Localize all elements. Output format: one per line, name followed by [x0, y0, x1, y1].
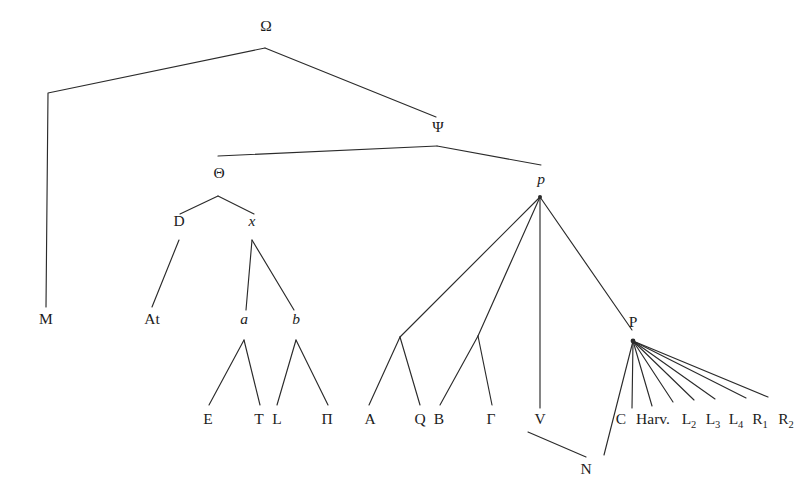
junction-p: [538, 195, 542, 199]
node-label-x: x: [248, 212, 256, 229]
node-label-pi: Π: [321, 410, 332, 427]
edge-p_cap-to-harv: [632, 341, 633, 408]
node-label-c: C: [616, 410, 626, 427]
stemma-canvas: ΩΨΘpMDxAtabETLΠAQBΓVNPCHarv.L2L3L4R1R2: [0, 0, 810, 498]
edge-fork1-to-a_cap: [369, 337, 400, 405]
edge-v-to-n: [528, 432, 586, 457]
node-label-l3: L3: [706, 410, 721, 430]
edge-b-to-pi: [296, 340, 328, 405]
node-label-l: L: [272, 410, 281, 427]
node-label-l2: L2: [682, 410, 697, 430]
node-label-l4: L4: [729, 410, 744, 430]
node-label-p_cap: P: [629, 313, 638, 330]
node-label-p_low: p: [536, 170, 545, 187]
edge-a-to-e: [209, 340, 244, 405]
node-label-at: At: [144, 310, 160, 327]
node-label-b_cap: B: [434, 410, 444, 427]
stemma-diagram: ΩΨΘpMDxAtabETLΠAQBΓVNPCHarv.L2L3L4R1R2: [0, 0, 810, 498]
edge-theta-to-d: [180, 196, 218, 214]
edge-fork1-to-q: [400, 337, 420, 405]
node-label-harv: Harv.: [636, 410, 670, 427]
junctions-layer: [538, 195, 635, 343]
node-subscript-l3: 3: [715, 419, 720, 430]
edge-x-to-b: [252, 240, 294, 310]
node-label-omega: Ω: [260, 17, 272, 34]
node-label-v: V: [534, 410, 546, 427]
node-subscript-l2: 2: [691, 419, 696, 430]
edge-p_cap-to-r2: [633, 341, 746, 398]
edge-p_low-to-p_cap: [540, 197, 632, 330]
labels-layer: ΩΨΘpMDxAtabETLΠAQBΓVNPCHarv.L2L3L4R1R2: [39, 17, 794, 477]
node-label-psi: Ψ: [432, 118, 444, 135]
node-label-n: N: [580, 460, 591, 477]
edge-psi-to-theta: [218, 146, 437, 156]
node-label-a_cap: A: [364, 410, 376, 427]
node-label-e: E: [203, 410, 212, 427]
node-label-b: b: [292, 310, 300, 327]
edge-a-to-t: [244, 340, 260, 405]
junction-pcap: [631, 339, 636, 344]
node-label-q: Q: [414, 410, 425, 427]
node-label-theta: Θ: [213, 164, 224, 181]
edge-psi-to-p_low: [437, 146, 541, 165]
node-label-r1: R1: [752, 410, 768, 430]
edge-omega-to-psi: [265, 48, 436, 117]
edges-layer: [46, 48, 768, 457]
node-label-m: M: [39, 310, 53, 327]
node-subscript-r1: 1: [763, 419, 768, 430]
edge-p_low-to-fork2: [478, 197, 540, 336]
edge-p_cap-to-l3: [633, 341, 673, 402]
node-subscript-l4: 4: [738, 419, 744, 430]
edge-fork2-to-b_cap: [440, 336, 478, 405]
node-label-r2: R2: [778, 410, 794, 430]
edge-d-to-at: [152, 240, 179, 307]
node-label-a: a: [240, 310, 248, 327]
node-label-d: D: [173, 212, 184, 229]
edge-b-to-l: [277, 340, 296, 405]
edge-p_low-to-fork1: [400, 197, 540, 337]
edge-fork2-to-gamma: [478, 336, 492, 405]
edge-omega-to-m: [46, 48, 265, 307]
edge-p_cap-to-c: [604, 341, 633, 455]
node-subscript-r2: 2: [789, 419, 794, 430]
node-label-gamma: Γ: [487, 410, 496, 427]
edge-x-to-a: [246, 240, 252, 310]
node-label-t: T: [254, 410, 264, 427]
